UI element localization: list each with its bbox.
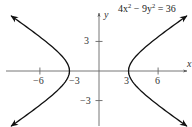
- x-tick-label-6: 6: [155, 75, 160, 86]
- plot-area: x y −6 −3 3 6 3 −3 4x2 − 9y2 = 36: [0, 0, 192, 127]
- hyperbola-graph: x y −6 −3 3 6 3 −3 4x2 − 9y2 = 36: [0, 0, 192, 127]
- x-tick-label-3: 3: [124, 75, 129, 86]
- y-tick-label-3: 3: [84, 35, 89, 46]
- y-tick-label-neg3: −3: [80, 95, 91, 106]
- x-axis-label: x: [186, 58, 192, 69]
- x-tick-label-neg6: −6: [33, 75, 44, 86]
- equation-label: 4x2 − 9y2 = 36: [118, 2, 176, 14]
- y-axis-label: y: [103, 9, 109, 20]
- x-tick-label-neg3: −3: [69, 75, 80, 86]
